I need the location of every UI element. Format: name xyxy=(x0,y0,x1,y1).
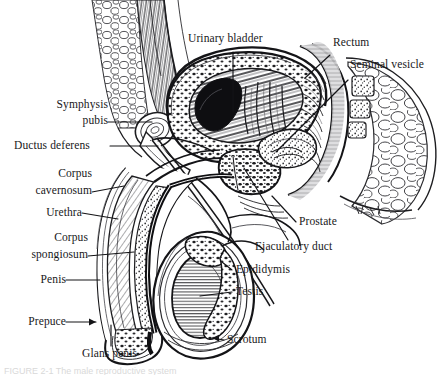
label-corpus-cavernosum-line2: cavernosum xyxy=(8,184,92,198)
label-ductus-deferens: Ductus deferens xyxy=(14,139,90,153)
label-penis: Penis xyxy=(14,273,66,287)
label-corpus-spongiosum-line1: Corpus xyxy=(4,231,88,245)
label-scrotum: Scrotum xyxy=(227,333,267,347)
figure-caption: FIGURE 2-1 The male reproductive system xyxy=(4,366,176,375)
anatomical-figure: Urinary bladder Rectum Seminal vesicle S… xyxy=(0,0,448,375)
label-testis: Testis xyxy=(236,285,263,299)
label-corpus-spongiosum-line2: spongiosum xyxy=(4,248,88,262)
label-seminal-vesicle: Seminal vesicle xyxy=(350,58,424,72)
label-prostate: Prostate xyxy=(299,215,337,229)
label-symphysis-pubis-line1: Symphysis xyxy=(24,98,108,112)
label-symphysis-pubis-line2: pubis xyxy=(24,114,108,128)
label-corpus-cavernosum-line1: Corpus xyxy=(8,167,92,181)
label-urethra: Urethra xyxy=(20,206,82,220)
label-epididymis: Epididymis xyxy=(236,263,290,277)
label-rectum: Rectum xyxy=(333,36,369,50)
label-ejaculatory-duct: Ejaculatory duct xyxy=(255,240,332,254)
label-urinary-bladder: Urinary bladder xyxy=(188,32,263,46)
label-glans-penis: Glans penis xyxy=(82,347,137,361)
label-prepuce: Prepuce xyxy=(4,315,66,329)
